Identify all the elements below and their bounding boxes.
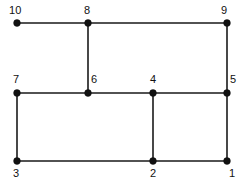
node-label-3: 3	[13, 168, 19, 179]
graph-svg	[0, 0, 245, 189]
node-point-5[interactable]	[224, 90, 231, 97]
node-point-2[interactable]	[150, 158, 157, 165]
node-label-8: 8	[84, 5, 90, 16]
node-point-8[interactable]	[85, 20, 92, 27]
node-label-9: 9	[221, 5, 227, 16]
node-point-1[interactable]	[224, 158, 231, 165]
node-point-7[interactable]	[14, 90, 21, 97]
node-label-2: 2	[150, 168, 156, 179]
node-label-7: 7	[13, 74, 19, 85]
node-label-4: 4	[150, 74, 156, 85]
node-label-6: 6	[91, 74, 97, 85]
diagram-canvas: 12345678910	[0, 0, 245, 189]
node-label-1: 1	[229, 168, 235, 179]
node-point-6[interactable]	[85, 90, 92, 97]
node-point-9[interactable]	[224, 20, 231, 27]
edges-group	[17, 23, 227, 161]
node-label-5: 5	[230, 74, 236, 85]
node-label-10: 10	[9, 5, 22, 16]
node-point-4[interactable]	[150, 90, 157, 97]
node-point-10[interactable]	[14, 20, 21, 27]
nodes-group	[14, 20, 231, 165]
node-point-3[interactable]	[14, 158, 21, 165]
